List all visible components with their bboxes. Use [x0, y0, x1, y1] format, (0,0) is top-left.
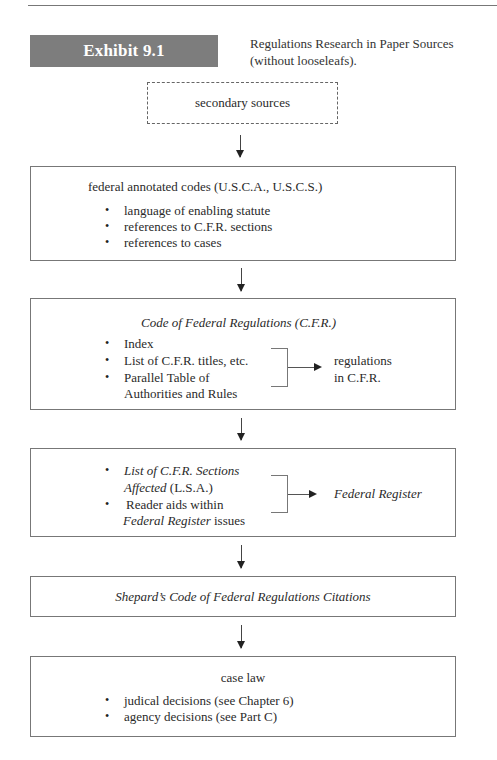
arrow-down-icon — [241, 545, 242, 568]
arrow-down-icon — [240, 135, 241, 157]
lsa-affected: Affected — [124, 480, 167, 495]
bullet-icon: • — [105, 497, 109, 512]
lsa-item-2: Reader aids within — [126, 497, 223, 514]
bullet-icon: • — [105, 203, 109, 218]
list-item-continuation: Authorities and Rules — [124, 386, 237, 403]
case-law-heading: case law — [31, 670, 455, 687]
list-item: references to C.F.R. sections — [124, 219, 272, 236]
shepards-label: Shepard’s Code of Federal Regulations Ci… — [31, 589, 455, 606]
bullet-icon: • — [105, 370, 109, 385]
top-rule — [28, 5, 497, 6]
arrow-right-icon — [288, 494, 315, 495]
bullet-icon: • — [105, 336, 109, 351]
list-item: Index — [124, 336, 154, 353]
caption-line-1: Regulations Research in Paper Sources — [250, 35, 454, 52]
cfr-heading: Code of Federal Regulations (C.F.R.) — [141, 315, 336, 332]
list-item: judical decisions (see Chapter 6) — [124, 693, 294, 710]
cfr-result-line-2: in C.F.R. — [334, 370, 381, 387]
bullet-icon: • — [105, 235, 109, 250]
lsa-result: Federal Register — [334, 486, 422, 503]
lsa-abbrev: (L.S.A.) — [167, 480, 213, 495]
bracket-connector — [271, 475, 288, 513]
arrow-down-icon — [241, 625, 242, 648]
arrow-right-icon — [288, 367, 320, 368]
annotated-codes-heading: federal annotated codes (U.S.C.A., U.S.C… — [88, 179, 322, 196]
list-item: agency decisions (see Part C) — [124, 709, 277, 726]
list-item: Parallel Table of — [124, 370, 209, 387]
exhibit-caption: Regulations Research in Paper Sources (w… — [250, 35, 454, 69]
lsa-item-1: List of C.F.R. Sections — [124, 463, 239, 480]
bullet-icon: • — [105, 693, 109, 708]
list-item: List of C.F.R. titles, etc. — [124, 353, 248, 370]
case-law-box: case law • judical decisions (see Chapte… — [30, 656, 456, 737]
shepards-box: Shepard’s Code of Federal Regulations Ci… — [30, 576, 456, 617]
bullet-icon: • — [105, 219, 109, 234]
cfr-result-line-1: regulations — [334, 353, 392, 370]
arrow-down-icon — [241, 268, 242, 291]
exhibit-badge: Exhibit 9.1 — [30, 35, 218, 67]
cfr-box: Code of Federal Regulations (C.F.R.) • I… — [30, 298, 456, 410]
bullet-icon: • — [105, 353, 109, 368]
lsa-box: • List of C.F.R. Sections Affected (L.S.… — [30, 448, 456, 537]
list-item: language of enabling statute — [124, 203, 270, 220]
issues-text: issues — [211, 513, 245, 528]
lsa-item-1-line-2: Affected (L.S.A.) — [124, 480, 213, 497]
bullet-icon: • — [105, 709, 109, 724]
lsa-item-2-line-2: Federal Register issues — [123, 513, 245, 530]
federal-register-italic: Federal Register — [123, 513, 211, 528]
caption-line-2: (without looseleafs). — [250, 52, 454, 69]
list-item: references to cases — [124, 235, 221, 252]
exhibit-label: Exhibit 9.1 — [83, 41, 165, 61]
secondary-sources-box: secondary sources — [147, 82, 338, 124]
arrow-down-icon — [241, 418, 242, 440]
bracket-connector — [271, 348, 288, 387]
annotated-codes-box: federal annotated codes (U.S.C.A., U.S.C… — [30, 166, 456, 261]
bullet-icon: • — [105, 463, 109, 478]
secondary-sources-label: secondary sources — [148, 95, 337, 112]
